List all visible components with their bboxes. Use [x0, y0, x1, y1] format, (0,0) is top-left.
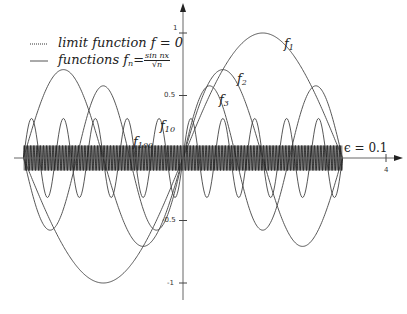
y-axis-arrow-icon [180, 3, 186, 12]
label-f100-sub: 100 [138, 141, 153, 150]
legend-lines [30, 44, 48, 61]
legend-eq: = [133, 52, 144, 67]
label-f2: f2 [237, 71, 247, 87]
label-f10: f10 [160, 118, 175, 134]
legend-frac-den: √n [144, 61, 170, 69]
label-f100: f100 [133, 134, 153, 150]
legend-fraction: sin nx√n [144, 52, 170, 69]
y-tick-label-neg1: -1 [167, 279, 174, 287]
label-f2-sub: 2 [242, 78, 247, 87]
label-f3-sub: 3 [224, 99, 229, 108]
label-f3: f3 [219, 92, 229, 108]
legend-limit-label: limit function f = 0 [58, 35, 183, 50]
label-f10-sub: 10 [165, 125, 175, 134]
label-f1-sub: 1 [289, 43, 294, 52]
label-epsilon: ϵ = 0.1 [344, 141, 388, 155]
y-tick-label-0.5: 0.5 [164, 91, 175, 99]
legend-functions-text: functions f [58, 52, 128, 67]
label-f1: f1 [284, 36, 294, 52]
y-tick-label-1: 1 [173, 24, 177, 32]
legend-functions-label: functions fn=sin nx√n [58, 52, 170, 69]
x-tick-label-4: 4 [384, 166, 388, 174]
y-tick-label-neg0.5: -0.5 [162, 216, 176, 224]
x-axis-arrow-icon [394, 155, 403, 161]
